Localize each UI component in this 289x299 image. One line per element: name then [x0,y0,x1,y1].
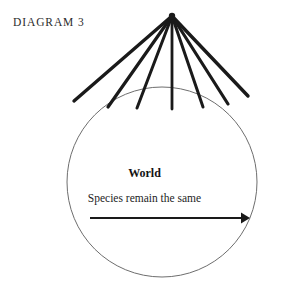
world-label: World [0,166,289,181]
diagram-figure: DIAGRAM 3 World Species remain the same [0,0,289,299]
ray-6 [172,16,228,104]
diagram-title: DIAGRAM 3 [13,16,85,28]
diagram-canvas [0,0,289,299]
species-label: Species remain the same [0,192,289,204]
time-arrow [90,213,250,224]
ray-7 [172,16,248,96]
ray-group [74,16,248,109]
apex-node [169,13,175,19]
world-circle [67,87,257,277]
ray-5 [172,16,203,107]
